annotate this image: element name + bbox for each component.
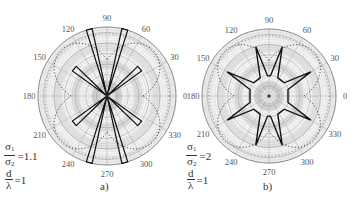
center-point [267,94,270,97]
angle-label-120: 120 [62,24,75,34]
angle-label-90: 90 [265,15,274,25]
param-ratio-b: σ1 σ2 =2 [186,141,211,170]
panel-label-a: a) [100,180,109,193]
angle-label-30: 30 [170,52,179,62]
angle-label-0: 0 [343,91,347,101]
d-lambda-value-a: =1 [15,174,27,186]
angle-label-270: 270 [263,167,276,177]
angle-label-120: 120 [225,25,238,35]
angle-label-90: 90 [103,13,112,23]
param-ratio-a: σ1 σ2 =1.1 [4,141,37,170]
lambda: λ [187,180,195,191]
ratio-value-a: =1.1 [17,150,37,162]
param-d-lambda-a: d λ =1 [5,168,26,191]
angle-label-150: 150 [197,53,210,63]
figure: 0306090120150180210240270300330 03060901… [0,0,361,205]
angle-label-60: 60 [303,25,312,35]
polar-plot-a: 0306090120150180210240270300330 [23,13,188,179]
angle-label-150: 150 [33,52,46,62]
angle-label-180: 180 [187,91,200,101]
lambda: λ [5,180,13,191]
angle-label-30: 30 [331,53,340,63]
param-d-lambda-b: d λ =1 [187,168,208,191]
panel-label-b: b) [263,180,273,193]
angle-label-180: 180 [23,91,36,101]
center-point [105,94,108,97]
angle-label-330: 330 [328,129,341,139]
angle-label-270: 270 [101,169,114,179]
angle-label-330: 330 [168,130,181,140]
angle-label-210: 210 [197,129,210,139]
angle-label-210: 210 [33,130,46,140]
angle-label-60: 60 [142,24,151,34]
angle-label-240: 240 [225,157,238,167]
angle-label-240: 240 [62,159,75,169]
angle-label-300: 300 [301,157,314,167]
ratio-value-b: =2 [199,150,211,162]
angle-label-300: 300 [140,159,153,169]
d-lambda-value-b: =1 [197,174,209,186]
